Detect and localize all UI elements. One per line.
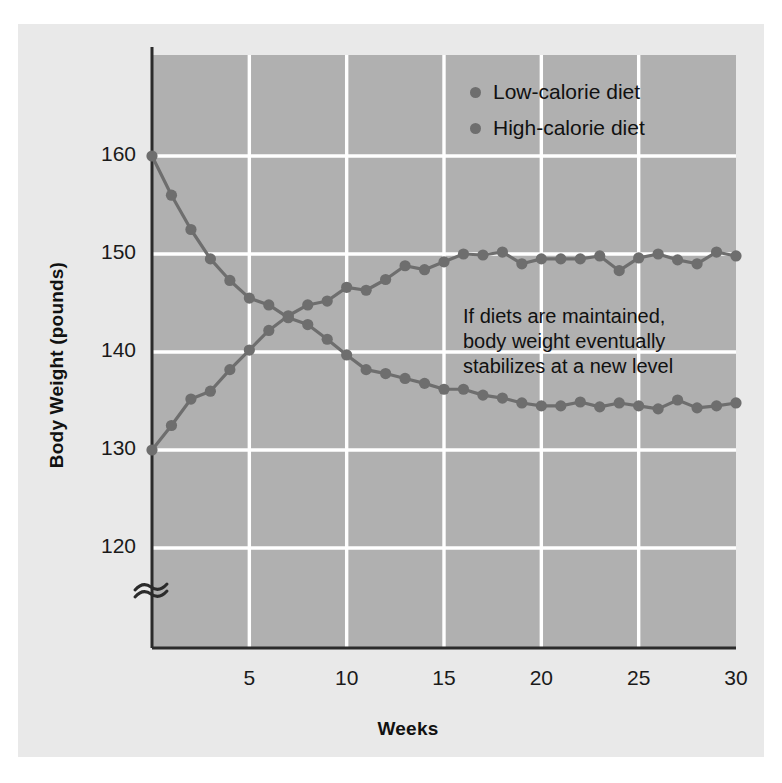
data-point [263,299,274,310]
data-point [633,252,644,263]
data-point [399,373,410,384]
data-point [672,254,683,265]
x-tick-label: 30 [706,666,766,690]
data-point [166,190,177,201]
data-point [497,246,508,257]
data-point [516,258,527,269]
data-point [224,364,235,375]
legend-marker-icon [470,87,481,98]
x-tick-label: 25 [609,666,669,690]
data-point [594,250,605,261]
data-point [633,400,644,411]
data-point [653,403,664,414]
data-point [205,253,216,264]
legend-item: Low-calorie diet [470,80,640,104]
data-point [555,253,566,264]
data-point [438,256,449,267]
data-point [302,319,313,330]
data-point [458,248,469,259]
chart-canvas [18,24,764,757]
x-tick-label: 20 [511,666,571,690]
data-point [166,420,177,431]
data-point [244,293,255,304]
data-point [555,400,566,411]
data-point [711,246,722,257]
data-point [224,275,235,286]
data-point [497,392,508,403]
data-point [614,265,625,276]
data-point [672,394,683,405]
data-point [146,150,157,161]
y-axis-title: Body Weight (pounds) [46,250,68,480]
y-tick-label: 130 [66,436,136,460]
data-point [341,282,352,293]
data-point [730,250,741,261]
data-point [341,349,352,360]
data-point [322,334,333,345]
x-tick-label: 10 [317,666,377,690]
data-point [399,260,410,271]
data-point [438,384,449,395]
data-point [477,249,488,260]
data-point [322,295,333,306]
data-point [380,368,391,379]
data-point [361,364,372,375]
data-point [283,310,294,321]
data-point [361,285,372,296]
y-tick-label: 150 [66,240,136,264]
data-point [244,344,255,355]
data-point [691,402,702,413]
legend-item: High-calorie diet [470,116,645,140]
data-point [185,393,196,404]
y-tick-label: 120 [66,534,136,558]
data-point [594,401,605,412]
data-point [536,253,547,264]
data-point [458,384,469,395]
data-point [205,386,216,397]
legend-label: Low-calorie diet [493,80,640,104]
legend-marker-icon [470,123,481,134]
data-point [146,444,157,455]
data-point [419,378,430,389]
data-point [614,397,625,408]
x-tick-label: 15 [414,666,474,690]
chart-figure: Body Weight (pounds) Weeks 1201301401501… [18,24,764,757]
data-point [419,264,430,275]
data-point [691,258,702,269]
data-point [380,274,391,285]
data-point [185,224,196,235]
data-point [302,299,313,310]
data-point [536,400,547,411]
data-point [263,325,274,336]
y-tick-label: 160 [66,142,136,166]
data-point [653,248,664,259]
data-point [575,396,586,407]
data-point [477,390,488,401]
x-tick-label: 5 [219,666,279,690]
chart-annotation: If diets are maintained, body weight eve… [463,304,673,379]
y-tick-label: 140 [66,338,136,362]
data-point [730,397,741,408]
data-point [575,253,586,264]
legend-label: High-calorie diet [493,116,645,140]
x-axis-title: Weeks [318,718,498,740]
data-point [711,400,722,411]
data-point [516,397,527,408]
